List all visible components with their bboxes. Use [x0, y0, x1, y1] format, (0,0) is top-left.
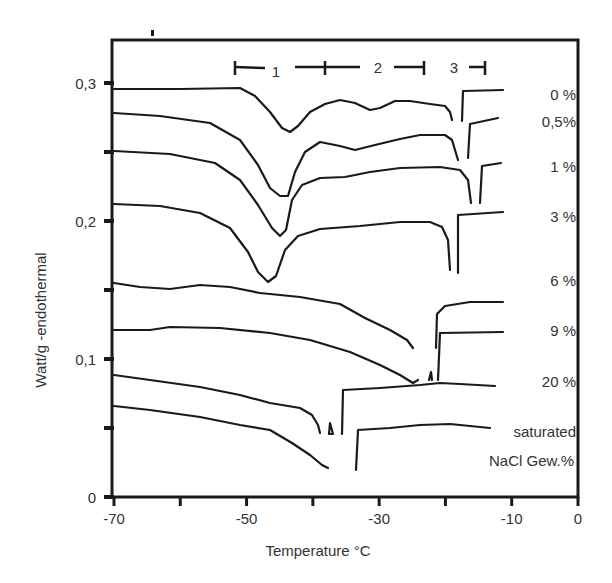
x-tick-label: -70 [103, 510, 125, 527]
dsc-curve [458, 212, 503, 273]
range-label-1: 1 [272, 63, 280, 80]
x-tick-label: 0 [574, 510, 582, 527]
dsc-curve [480, 163, 501, 203]
series-label: 6 % [550, 272, 576, 289]
dsc-curve [468, 118, 498, 158]
series-label: 0 % [550, 86, 576, 103]
stray-mark [151, 30, 154, 36]
dsc-curve [329, 423, 333, 434]
y-tick-label: 0,2 [75, 213, 96, 230]
series-labels: 0 %0,5%1 %3 %6 %9 %20 % [542, 86, 576, 390]
dsc-curve [462, 90, 503, 121]
legend-caption-saturated: saturated [513, 423, 576, 440]
dsc-curve [356, 424, 490, 470]
series-label: 0,5% [542, 113, 576, 130]
range-label-3: 3 [450, 59, 458, 76]
series-label: 1 % [550, 158, 576, 175]
x-axis-ticks: -70-50-30-100 [103, 497, 582, 527]
legend-caption-nacl: NaCl Gew.% [489, 452, 574, 469]
y-tick-label: 0 [88, 489, 96, 506]
y-axis-ticks: 00,10,20,3 [75, 75, 114, 506]
series-label: 9 % [550, 322, 576, 339]
dsc-curve [114, 406, 328, 468]
dsc-curve [114, 283, 413, 348]
dsc-curves [114, 88, 503, 470]
dsc-curve [436, 302, 503, 348]
plot-frame [112, 40, 578, 497]
dsc-curve [438, 332, 503, 380]
y-axis-title: Watt/g -endothermal [32, 252, 49, 387]
y-tick-label: 0,1 [75, 351, 96, 368]
x-tick-label: -10 [501, 510, 523, 527]
dsc-curve [114, 88, 452, 132]
series-label: 20 % [542, 373, 576, 390]
dsc-chart: 00,10,20,3 -70-50-30-100 0 %0,5%1 %3 %6 … [0, 0, 612, 583]
y-tick-label: 0,3 [75, 75, 96, 92]
x-tick-label: -50 [236, 510, 258, 527]
dsc-curve [114, 151, 471, 236]
range-label-2: 2 [374, 59, 382, 76]
dsc-curve [114, 204, 450, 282]
series-label: 3 % [550, 208, 576, 225]
x-tick-label: -30 [368, 510, 390, 527]
dsc-curve [114, 375, 320, 433]
x-axis-title: Temperature °C [265, 542, 370, 559]
dsc-curve [114, 327, 418, 383]
dsc-curve [429, 372, 432, 380]
